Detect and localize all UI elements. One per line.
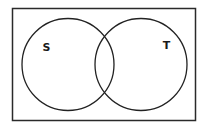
set-s-circle — [22, 19, 114, 111]
set-t-label: T — [163, 39, 171, 52]
set-s-label: S — [43, 41, 51, 54]
venn-diagram: S T — [0, 0, 210, 130]
set-t-circle — [95, 19, 187, 111]
universe-rectangle — [13, 9, 196, 121]
